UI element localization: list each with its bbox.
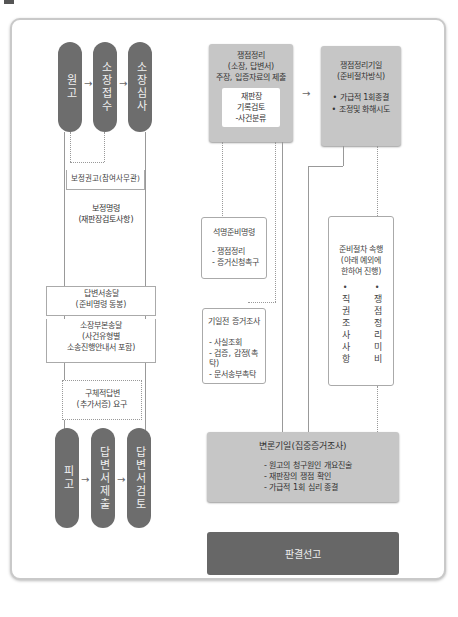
connector-dotted [222,142,223,220]
step-label: 소장부본송달 [47,321,155,332]
box-subtitle: 주장, 입증자료의 제출 [209,72,293,83]
arrow-right-icon: → [117,474,125,485]
connector-line [308,166,343,167]
answer-delivery: 답변서송달 (준비명령 동봉) [46,286,156,316]
box-subtitle: 한하여 진행) [329,267,393,278]
judge-review-inner-box: 재판장 기록검토 -사건분류 [222,88,280,128]
inner-label: 재판장 [222,91,280,102]
step-sublabel: (준비명령 동봉) [47,300,155,311]
pillar-answer-submission: 답변서제출 [91,428,115,528]
bullet-item: • 조정및 화해시도 [321,104,401,115]
list-item: - 재판장의 쟁점 확인 [207,471,399,482]
box-subtitle: (소장, 답변서) [209,61,293,72]
list-item: - 원고의 청구원인 개요진술 [207,460,399,471]
box-title: 변론기일(집중증거조사) [207,440,399,453]
step-label: 보정권고(참여사무관) [71,174,140,183]
pillar-label: 답변서제출 [95,446,111,511]
arrow-right-icon: → [119,78,127,89]
bullet-item: • 가급적 1회종결 [321,92,401,103]
box-subtitle: (아래 예외에 [329,256,393,267]
pillar-label: 소장접수 [97,61,113,113]
list-item: - 문서송부촉탁 [203,370,265,381]
connector-dotted [377,386,378,432]
correction-recommendation: 보정권고(참여사무관) [66,170,145,190]
pillar-defendant: 피고 [55,428,79,528]
step-sublabel: (사건유형별 [47,332,155,343]
step-label: 답변서송달 [47,289,155,300]
connector-dotted [275,142,276,302]
verdict-box: 판결선고 [207,532,399,575]
bullet-icon: • [343,283,348,294]
list-item: - 증거신청촉구 [202,258,266,269]
box-title: 쟁점정리기일 [321,60,401,71]
title-marker-icon [4,0,14,4]
exception-ex-officio: • 직권조사사항 [339,283,351,366]
list-item: - 가급적 1회 심리 종결 [207,482,399,493]
pillar-label: 소장심사 [132,61,148,113]
list-item: - 쟁점정리 [202,247,266,258]
step-sublabel: 소송진행안내서 포함) [47,343,155,354]
arrow-right-icon: → [84,78,92,89]
list-item: - 검증, 감정(촉탁) [203,349,265,371]
pillar-label: 원고 [62,74,78,100]
exception-issues-unresolved: • 쟁점정리미비 [371,283,383,366]
bullet-icon: • [375,283,380,294]
exception-label: 직권조사사항 [339,294,351,366]
pre-hearing-evidence-box: 기일전 증거조사 - 사실조회 - 검증, 감정(촉탁) - 문서송부촉탁 [202,308,266,384]
prep-procedure-continuation-box: 준비절차 속행 (아래 예외에 한하여 진행) • 직권조사사항 • 쟁점정리미… [328,216,394,386]
connector-dotted [248,302,276,303]
pillar-complaint-receipt: 소장접수 [93,42,117,132]
step-sublabel: (재판장검토사항) [60,214,152,225]
step-label: 보정명령 [60,203,152,214]
box-title: 쟁점정리 [209,50,293,61]
specific-answer-request: 구체적답변 (추가서증) 요구 [62,380,142,420]
connector-line [308,166,309,432]
pillar-label: 피고 [59,465,75,491]
pillar-plaintiff: 원고 [58,42,82,132]
connector-line [282,142,283,432]
verdict-label: 판결선고 [285,546,321,561]
issue-hearing-date-box: 쟁점정리기일 (준비절차방식) • 가급적 1회종결 • 조정및 화해시도 [321,46,401,146]
list-item: - 사실조회 [203,338,265,349]
box-title: 기일전 증거조사 [203,317,265,328]
inner-label: 기록검토 [222,102,280,113]
box-title: 준비절차 속행 [329,245,393,256]
arrow-right-icon: → [302,88,310,99]
step-sublabel: (추가서증) 요구 [63,400,141,411]
inner-label: -사건분류 [222,113,280,124]
exception-label: 쟁점정리미비 [371,294,383,366]
connector-line [343,146,344,166]
pillar-complaint-review: 소장심사 [128,42,152,132]
complaint-copy-delivery: 소장부본송달 (사건유형별 소송진행안내서 포함) [46,319,156,363]
arrow-right-icon: → [81,474,89,485]
box-title: 석명준비명령 [202,228,266,239]
exception-columns: • 직권조사사항 • 쟁점정리미비 [329,283,393,366]
argument-hearing-box: 변론기일(집중증거조사) - 원고의 청구원인 개요진술 - 재판장의 쟁점 확… [207,432,399,502]
box-subtitle: (준비절차방식) [321,71,401,82]
pillar-answer-review: 답변서검토 [127,428,151,528]
pillar-label: 답변서검토 [131,446,147,511]
issue-organization-box: 쟁점정리 (소장, 답변서) 주장, 입증자료의 제출 재판장 기록검토 -사건… [209,44,293,142]
connector-dotted [70,162,104,163]
step-label: 구체적답변 [63,389,141,400]
connector-dotted [104,132,105,162]
connector-dotted [70,132,71,162]
connector-dotted [377,146,378,216]
correction-order: 보정명령 (재판장검토사항) [60,203,152,225]
clarification-order-box: 석명준비명령 - 쟁점정리 - 증거신청촉구 [201,217,267,279]
